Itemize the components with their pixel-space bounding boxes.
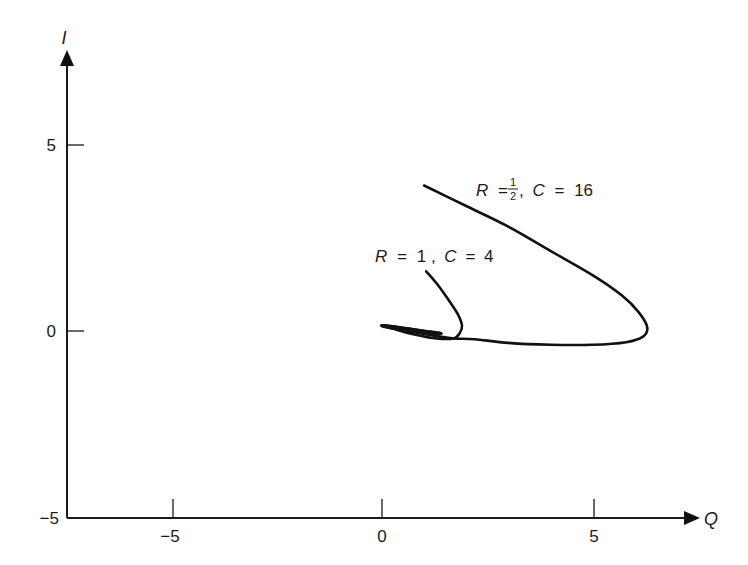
axes xyxy=(67,62,686,518)
svg-text:R = 1 ,: R = 1 , C = 4 xyxy=(375,247,494,266)
ann1-frac-num: 1 xyxy=(510,176,516,188)
ann1-frac-den: 2 xyxy=(510,190,516,202)
ann1-eq2: = xyxy=(554,181,564,200)
ann2-val1: 1 xyxy=(417,247,426,266)
y-axis-label: I xyxy=(61,28,66,48)
annotation-r-1-c-4: R = 1 , C = 4 xyxy=(375,247,494,266)
x-tick-label-minus5: −5 xyxy=(160,527,179,546)
ann2-cval: 4 xyxy=(484,247,493,266)
y-tick-label-5: 5 xyxy=(47,136,56,155)
ann2-c: C xyxy=(444,247,457,266)
y-tick-label-0: 0 xyxy=(47,322,56,341)
ann1-cval: 16 xyxy=(574,181,593,200)
svg-text:, C = 16: , C = 16 xyxy=(519,181,593,200)
ann2-r: R xyxy=(375,247,387,266)
phase-plot: 5 0 −5 −5 0 5 I Q R = 1 2 , C = 16 R = 1… xyxy=(0,0,748,565)
ann1-r: R xyxy=(476,181,488,200)
ann1-eq1: = xyxy=(498,181,508,200)
annotation-r-half-c-16: R = 1 2 , C = 16 xyxy=(476,176,593,202)
svg-text:R =: R = xyxy=(476,181,508,200)
x-tick-label-0: 0 xyxy=(377,527,386,546)
x-axis-label: Q xyxy=(704,509,718,529)
ann2-eq1: = xyxy=(397,247,407,266)
ann2-eq2: = xyxy=(465,247,475,266)
ann1-c: C xyxy=(532,181,545,200)
y-tick-label-minus5: −5 xyxy=(40,509,59,528)
y-axis-arrow-icon xyxy=(60,50,74,66)
x-tick-label-5: 5 xyxy=(589,527,598,546)
ann2-sep: , xyxy=(431,247,436,266)
curve-r-1-c-4 xyxy=(382,271,462,339)
x-axis-arrow-icon xyxy=(684,511,700,525)
ann1-sep: , xyxy=(519,181,524,200)
